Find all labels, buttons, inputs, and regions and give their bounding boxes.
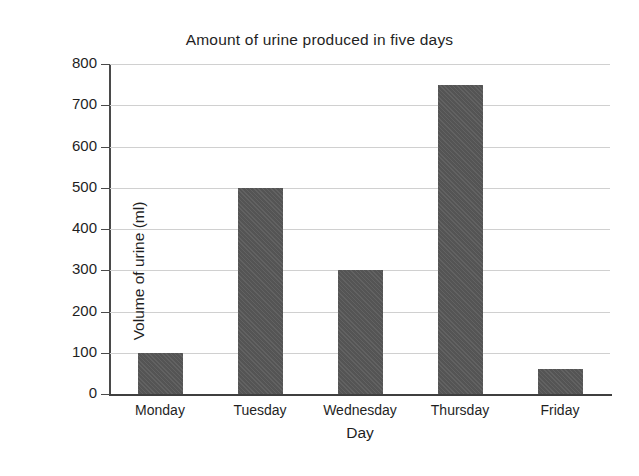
y-axis-tick	[101, 312, 110, 313]
y-axis-tick	[101, 270, 110, 271]
bar	[538, 369, 583, 394]
y-axis-tick	[101, 105, 110, 106]
chart-title: Amount of urine produced in five days	[0, 31, 639, 49]
y-axis-tick-label: 700	[37, 95, 97, 112]
y-axis-tick	[101, 394, 110, 395]
bar	[438, 85, 483, 394]
bar	[238, 188, 283, 394]
y-axis-tick-label: 0	[37, 384, 97, 401]
y-axis-tick-label: 400	[37, 219, 97, 236]
gridline	[110, 105, 610, 106]
y-axis-tick-label: 100	[37, 343, 97, 360]
bar-chart: Amount of urine produced in five days Vo…	[0, 0, 639, 476]
y-axis-tick	[101, 188, 110, 189]
y-axis-tick-label: 300	[37, 260, 97, 277]
y-axis-tick	[101, 64, 110, 65]
gridline	[110, 147, 610, 148]
x-axis-tick-label: Friday	[500, 402, 620, 418]
plot-area: Volume of urine (ml)	[110, 64, 610, 394]
x-axis-line	[109, 394, 612, 396]
y-axis-tick	[101, 147, 110, 148]
y-axis-title: Volume of urine (ml)	[130, 156, 148, 386]
gridline	[110, 64, 610, 65]
y-axis-tick-label: 800	[37, 54, 97, 71]
y-axis-tick-label: 200	[37, 302, 97, 319]
y-axis-tick	[101, 353, 110, 354]
y-axis-tick	[101, 229, 110, 230]
x-axis-title: Day	[110, 424, 610, 442]
gridline	[110, 229, 610, 230]
y-axis-tick-label: 500	[37, 178, 97, 195]
bar	[338, 270, 383, 394]
gridline	[110, 188, 610, 189]
y-axis-tick-label: 600	[37, 137, 97, 154]
